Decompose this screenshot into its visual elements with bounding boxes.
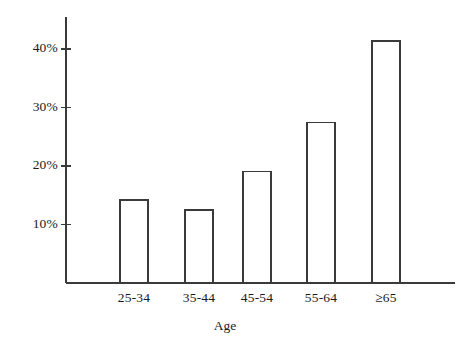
bar [307, 123, 335, 283]
bars-group [120, 41, 400, 283]
y-tick-label: 10% [8, 216, 58, 232]
bar-chart: 10%20%30%40% 25-3435-4445-5455-64≥65 Age [0, 0, 472, 350]
bar [120, 200, 148, 283]
x-tick-label: ≥65 [341, 290, 431, 306]
y-tick-label: 40% [8, 40, 58, 56]
y-tick-label: 20% [8, 157, 58, 173]
y-tick-label: 30% [8, 99, 58, 115]
bar [243, 171, 271, 283]
bar [185, 210, 213, 283]
x-axis-title: Age [180, 318, 270, 334]
bar [372, 41, 400, 283]
